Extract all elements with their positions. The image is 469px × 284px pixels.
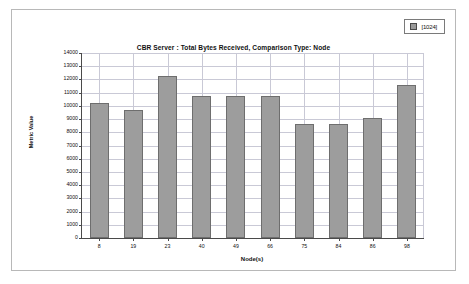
x-tick-label: 66 bbox=[267, 244, 273, 249]
x-axis-title: Node(s) bbox=[81, 256, 423, 262]
gridline-vertical bbox=[423, 53, 424, 238]
y-tick-label: 0 bbox=[75, 235, 82, 240]
x-tick-label: 84 bbox=[336, 244, 342, 249]
bar[interactable] bbox=[363, 118, 382, 238]
x-tick-label: 23 bbox=[165, 244, 171, 249]
x-tick-mark bbox=[270, 238, 271, 241]
x-tick-mark bbox=[304, 238, 305, 241]
chart-legend[interactable]: [1024] bbox=[404, 19, 445, 34]
y-tick-label: 12000 bbox=[64, 77, 82, 82]
y-tick-label: 6000 bbox=[66, 156, 82, 161]
x-tick-label: 98 bbox=[404, 244, 410, 249]
y-tick-label: 14000 bbox=[64, 50, 82, 55]
x-tick-mark bbox=[168, 238, 169, 241]
y-tick-label: 9000 bbox=[66, 116, 82, 121]
y-tick-label: 1000 bbox=[66, 222, 82, 227]
bar[interactable] bbox=[90, 103, 109, 238]
plot-area: 1400013000120001100010000900080007000600… bbox=[81, 53, 424, 239]
bar[interactable] bbox=[397, 85, 416, 238]
x-tick-label: 49 bbox=[233, 244, 239, 249]
x-tick-mark bbox=[236, 238, 237, 241]
y-tick-label: 10000 bbox=[64, 103, 82, 108]
y-tick-label: 7000 bbox=[66, 143, 82, 148]
bar[interactable] bbox=[295, 124, 314, 238]
y-tick-label: 11000 bbox=[64, 90, 82, 95]
chart-window-frame: [1024] CBR Server : Total Bytes Received… bbox=[11, 9, 456, 271]
bar[interactable] bbox=[158, 76, 177, 238]
bar[interactable] bbox=[124, 110, 143, 238]
y-tick-label: 3000 bbox=[66, 196, 82, 201]
gridline-horizontal bbox=[82, 53, 424, 54]
legend-label: [1024] bbox=[422, 24, 437, 30]
x-tick-label: 40 bbox=[199, 244, 205, 249]
bar[interactable] bbox=[329, 124, 348, 238]
x-tick-mark bbox=[339, 238, 340, 241]
x-tick-mark bbox=[99, 238, 100, 241]
y-tick-label: 8000 bbox=[66, 130, 82, 135]
x-tick-mark bbox=[202, 238, 203, 241]
y-tick-label: 2000 bbox=[66, 209, 82, 214]
square-swatch-icon bbox=[410, 23, 417, 30]
x-tick-mark bbox=[133, 238, 134, 241]
y-tick-label: 13000 bbox=[64, 64, 82, 69]
x-tick-mark bbox=[407, 238, 408, 241]
x-tick-label: 75 bbox=[301, 244, 307, 249]
x-tick-label: 8 bbox=[98, 244, 101, 249]
y-tick-label: 5000 bbox=[66, 169, 82, 174]
x-tick-mark bbox=[373, 238, 374, 241]
bar[interactable] bbox=[192, 96, 211, 238]
x-tick-label: 19 bbox=[130, 244, 136, 249]
x-tick-label: 86 bbox=[370, 244, 376, 249]
y-axis-title: Metric Value bbox=[28, 116, 34, 149]
bar[interactable] bbox=[226, 96, 245, 238]
bar[interactable] bbox=[261, 96, 280, 238]
y-tick-label: 4000 bbox=[66, 183, 82, 188]
